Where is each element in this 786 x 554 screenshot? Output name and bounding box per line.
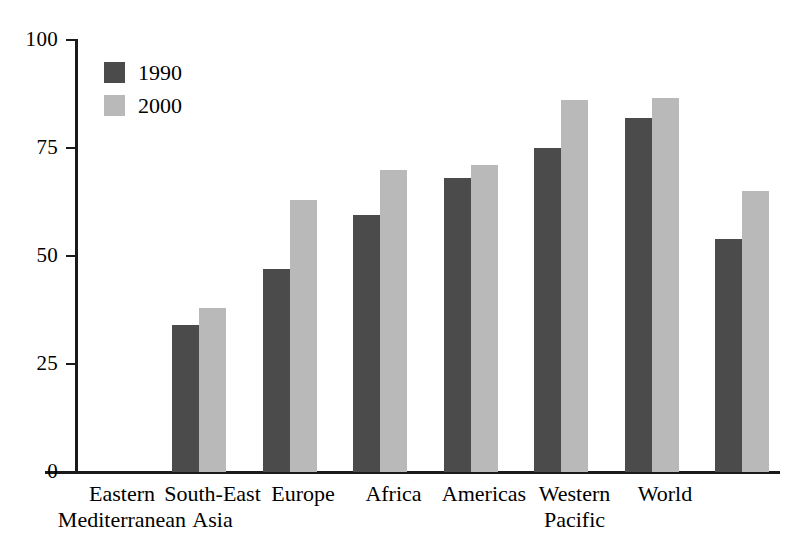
category-label-6: World: [555, 481, 775, 507]
y-axis-tick-label: 25: [6, 353, 58, 374]
legend-swatch-1990-icon: [104, 62, 125, 83]
bar-1990-3: [444, 178, 471, 472]
y-axis-tick-label: 50: [6, 245, 58, 266]
bar-2000-0: [199, 308, 226, 472]
bar-chart: 0255075100 EasternMediterraneanSouth-Eas…: [0, 0, 786, 554]
y-axis-tick-mark: [66, 147, 75, 149]
bar-1990-4: [534, 148, 561, 472]
y-axis-tick-mark: [66, 255, 75, 257]
bar-1990-5: [625, 118, 652, 472]
y-axis-tick-label: 100: [6, 29, 58, 50]
category-label-line1: World: [555, 481, 775, 507]
bar-2000-3: [471, 165, 498, 472]
legend-label-1990: 1990: [138, 62, 182, 84]
legend-label-2000: 2000: [138, 95, 182, 117]
y-axis-tick-label: 0: [6, 461, 58, 482]
bar-1990-1: [263, 269, 290, 472]
bar-1990-0: [172, 325, 199, 472]
category-label-line2: Asia: [103, 507, 323, 533]
bar-1990-6: [715, 239, 742, 472]
category-label-line2: Pacific: [465, 507, 685, 533]
y-axis-tick-mark: [66, 39, 75, 41]
legend-item-1990: 1990: [104, 56, 182, 89]
legend-item-2000: 2000: [104, 89, 182, 122]
legend-swatch-2000-icon: [104, 95, 125, 116]
chart-legend: 1990 2000: [104, 56, 182, 122]
bar-1990-2: [353, 215, 380, 472]
y-axis-tick-label: 75: [6, 137, 58, 158]
bar-2000-5: [652, 98, 679, 472]
y-axis-tick-mark: [66, 363, 75, 365]
plot-area: [77, 40, 777, 472]
bar-2000-4: [561, 100, 588, 472]
y-axis-tick-mark: [66, 471, 75, 473]
bar-2000-6: [742, 191, 769, 472]
bar-2000-1: [290, 200, 317, 472]
bar-2000-2: [380, 170, 407, 472]
